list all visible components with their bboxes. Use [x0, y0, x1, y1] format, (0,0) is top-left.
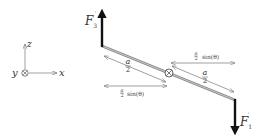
z-axis-label: z: [26, 39, 32, 49]
y-axis-label: y: [11, 67, 18, 78]
svg-text:a: a: [203, 68, 208, 77]
svg-text:': ': [248, 111, 249, 117]
beam-diagram: z x y F3 ' F1 ' a 2 a: [0, 0, 263, 140]
x-axis-label: x: [59, 67, 65, 78]
force-f3-label: F3: [84, 14, 97, 29]
dimension-right-horizontal: a 2 sin(θ): [171, 50, 235, 63]
axes-indicator: z x y: [11, 39, 65, 78]
svg-text:sin(θ): sin(θ): [127, 90, 144, 97]
svg-text:2: 2: [194, 55, 197, 61]
pivot-icon: [165, 69, 173, 77]
svg-text:2: 2: [120, 92, 123, 98]
force-f1-label: F1: [239, 115, 252, 130]
svg-text:sin(θ): sin(θ): [202, 53, 219, 60]
svg-text:2: 2: [126, 66, 130, 74]
force-f3: F3 ': [84, 10, 102, 47]
svg-text:2: 2: [203, 77, 207, 85]
svg-text:a: a: [126, 57, 131, 66]
dimension-left-horizontal: a 2 sin(θ): [104, 86, 167, 98]
force-f1: F1 ': [235, 99, 252, 131]
svg-text:': ': [95, 10, 96, 16]
